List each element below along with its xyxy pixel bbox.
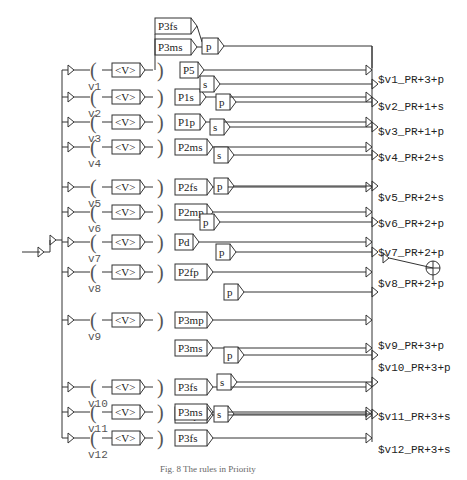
row-input-arrow-icon <box>68 382 74 392</box>
value-box[interactable]: <V> <box>112 90 145 104</box>
output-label: $v5_PR+2+s <box>378 192 444 204</box>
output-label: $v1_PR+3+p <box>378 74 444 86</box>
svg-text:(: ( <box>90 427 97 450</box>
rule-P3ms[interactable]: P3ms <box>175 404 213 420</box>
svg-text:P5: P5 <box>183 64 195 76</box>
row-input-arrow-icon <box>68 65 74 75</box>
svg-text:): ) <box>157 111 164 134</box>
value-box[interactable]: <V> <box>112 63 145 77</box>
output-arrow-icon <box>366 237 372 247</box>
svg-text:<V>: <V> <box>115 116 135 128</box>
svg-text:<V>: <V> <box>115 236 135 248</box>
svg-text:(: ( <box>90 261 97 284</box>
row-input-arrow-icon <box>68 92 74 102</box>
row-input-arrow-icon <box>68 315 74 325</box>
svg-text:(: ( <box>90 136 97 159</box>
figure-caption: Fig. 8 The rules in Priority <box>160 464 256 474</box>
row-input-arrow-icon <box>68 237 74 247</box>
svg-text:): ) <box>157 261 164 284</box>
output-label: $v3_PR+1+p <box>378 126 444 138</box>
gate-p[interactable]: p <box>214 178 234 194</box>
rule-P3fs[interactable]: P3fs <box>175 379 213 395</box>
variable-label: v8 <box>88 283 101 295</box>
output-arrow-icon <box>366 343 372 353</box>
svg-text:s: s <box>203 78 207 90</box>
svg-text:<V>: <V> <box>115 64 135 76</box>
svg-text:<V>: <V> <box>115 91 135 103</box>
svg-text:(: ( <box>90 309 97 332</box>
gate-s[interactable]: s <box>200 76 220 92</box>
output-label: $v9_PR+3+p <box>378 340 444 352</box>
row-1: (<V>)v1P5$v1_PR+3+p <box>62 59 444 93</box>
svg-text:(: ( <box>90 231 97 254</box>
gate-p-top[interactable]: p <box>202 38 224 54</box>
gate-p[interactable]: p <box>224 347 244 363</box>
value-box[interactable]: <V> <box>112 265 145 279</box>
svg-text:s: s <box>217 149 221 161</box>
value-box[interactable]: <V> <box>112 180 145 194</box>
value-box[interactable]: <V> <box>112 205 145 219</box>
value-box[interactable]: <V> <box>112 140 145 154</box>
top-rule-P3fs[interactable]: P3fs <box>155 18 197 34</box>
gate-s[interactable]: s <box>217 374 237 390</box>
output-label: $v6_PR+2+p <box>378 218 444 230</box>
svg-text:): ) <box>157 86 164 109</box>
svg-text:s: s <box>220 376 224 388</box>
output-arrow-icon <box>366 182 372 192</box>
gate-s[interactable]: s <box>214 147 234 163</box>
svg-text:<V>: <V> <box>115 381 135 393</box>
svg-text:(: ( <box>90 401 97 424</box>
output-label: $v4_PR+2+s <box>378 152 444 164</box>
output-arrow-icon <box>366 92 372 102</box>
svg-text:p: p <box>219 246 225 258</box>
output-label: $v8_PR+2+p <box>378 278 444 290</box>
svg-text:p: p <box>227 349 233 361</box>
svg-text:<V>: <V> <box>115 206 135 218</box>
output-label: $v11_PR+3+s <box>378 411 451 423</box>
svg-text:): ) <box>157 376 164 399</box>
value-box[interactable]: <V> <box>112 115 145 129</box>
gate-s[interactable]: s <box>214 406 234 422</box>
value-box[interactable]: <V> <box>112 313 145 327</box>
gate-p[interactable]: p <box>224 284 244 300</box>
svg-text:P2fs: P2fs <box>178 181 198 193</box>
svg-text:(: ( <box>90 59 97 82</box>
svg-text:p: p <box>227 286 233 298</box>
svg-text:): ) <box>157 59 164 82</box>
gate-p[interactable]: p <box>216 244 236 260</box>
output-arrow-icon <box>366 117 372 127</box>
block-diagram: P3fs P3ms p (<V>)v1P5$v1_PR+3+p(<V>)v2P1… <box>0 0 467 480</box>
rule-P3mp[interactable]: P3mp <box>175 312 213 328</box>
variable-label: v9 <box>88 331 101 343</box>
svg-text:s: s <box>213 121 217 133</box>
value-box[interactable]: <V> <box>112 380 145 394</box>
rule-P2ms[interactable]: P2ms <box>175 139 213 155</box>
output-arrow-icon <box>366 142 372 152</box>
row-input-arrow-icon <box>68 117 74 127</box>
value-box[interactable]: <V> <box>112 405 145 419</box>
rule-P1p[interactable]: P1p <box>175 114 206 130</box>
gate-s[interactable]: s <box>210 119 230 135</box>
svg-text:p: p <box>219 96 225 108</box>
rule-P3ms[interactable]: P3ms <box>175 340 213 356</box>
gate-p[interactable]: p <box>216 94 236 110</box>
row-input-arrow-icon <box>68 182 74 192</box>
svg-text:): ) <box>157 427 164 450</box>
gate-p[interactable]: p <box>200 214 220 230</box>
rule-P3fs[interactable]: P3fs <box>175 430 213 446</box>
top-rule-P3ms[interactable]: P3ms <box>155 39 197 55</box>
svg-text:P3fs: P3fs <box>178 381 198 393</box>
row-input-arrow-icon <box>68 142 74 152</box>
output-label: $v10_PR+3+p <box>378 362 451 374</box>
svg-text:<V>: <V> <box>115 432 135 444</box>
rule-Pd[interactable]: Pd <box>175 234 199 250</box>
rule-P2fp[interactable]: P2fp <box>175 264 213 280</box>
value-box[interactable]: <V> <box>112 235 145 249</box>
variable-label: v12 <box>88 449 108 461</box>
output-label: $v12_PR+3+s <box>378 444 451 456</box>
svg-text:): ) <box>157 309 164 332</box>
value-box[interactable]: <V> <box>112 431 145 445</box>
rule-P2fs[interactable]: P2fs <box>175 179 213 195</box>
svg-text:Pd: Pd <box>178 236 190 248</box>
svg-text:p: p <box>206 40 212 52</box>
